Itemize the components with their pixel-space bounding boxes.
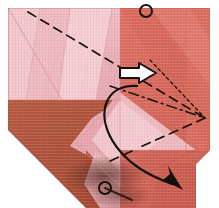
origami-step-figure: Origami folding step diagram Fold the fl… [0, 0, 219, 208]
origami-illustration [0, 0, 219, 208]
paper-model [0, 0, 219, 208]
